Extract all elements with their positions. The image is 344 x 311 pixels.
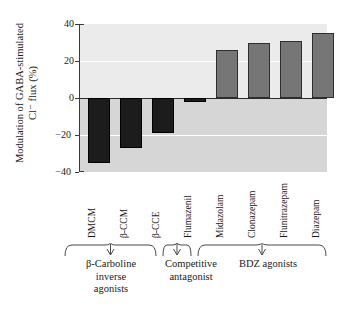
group-label-beta-carboline-line2: inverse xyxy=(57,271,165,284)
x-tick-label-diazepam: Diazepam xyxy=(309,176,323,238)
y-axis-title-line2: Cl⁻ flux (%) xyxy=(26,23,39,163)
group-label-beta-carboline: β-Carboline inverse agonists xyxy=(57,258,165,296)
group-label-bdz-agonists: BDZ agonists xyxy=(218,258,318,271)
group-brace-competitive-antagonist xyxy=(162,243,192,256)
group-label-beta-carboline-line1: β-Carboline xyxy=(57,258,165,271)
group-label-competitive-antagonist-line1: Competitive xyxy=(157,258,225,271)
x-tick-label-clonazepam: Clonazepam xyxy=(245,176,259,238)
group-brace-beta-carboline xyxy=(64,243,157,256)
plot-area xyxy=(79,24,327,172)
x-tick-label-beta-cce: β-CCE xyxy=(149,176,163,238)
gridline-neg20 xyxy=(80,135,327,136)
bar-diazepam xyxy=(312,33,334,98)
x-tick-label-dmcm: DMCM xyxy=(85,176,99,238)
axis-cap-top xyxy=(79,24,84,25)
y-tick-label-20: 20 xyxy=(48,56,74,66)
y-tick-label-neg40: −40 xyxy=(45,167,71,177)
y-tick-label-neg20: −20 xyxy=(45,130,71,140)
bar-beta-cce xyxy=(152,98,174,133)
y-tick-label-40: 40 xyxy=(48,19,74,29)
y-tick-label-0: 0 xyxy=(48,93,74,103)
bar-dmcm xyxy=(88,98,110,163)
bar-flunitrazepam xyxy=(280,41,302,98)
group-brace-bdz-agonists xyxy=(197,243,327,256)
x-tick-label-flumazenil: Flumazenil xyxy=(181,176,195,238)
bar-beta-ccm xyxy=(120,98,142,148)
bar-midazolam xyxy=(216,50,238,98)
group-label-beta-carboline-line3: agonists xyxy=(57,283,165,296)
bar-chart-figure: Modulation of GABA-stimulated Cl⁻ flux (… xyxy=(0,0,344,311)
axis-cap-bottom xyxy=(79,171,84,172)
y-axis-title-line1: Modulation of GABA-stimulated xyxy=(14,23,25,163)
group-label-competitive-antagonist-line2: antagonist xyxy=(157,271,225,284)
x-tick-label-beta-ccm: β-CCM xyxy=(117,176,131,238)
y-axis-title: Modulation of GABA-stimulated Cl⁻ flux (… xyxy=(4,0,48,185)
bar-flumazenil xyxy=(184,98,206,102)
group-label-bdz-agonists-line1: BDZ agonists xyxy=(218,258,318,271)
bar-clonazepam xyxy=(248,43,270,99)
x-tick-label-midazolam: Midazolam xyxy=(213,176,227,238)
x-tick-label-flunitrazepam: Flunitrazepam xyxy=(277,176,291,238)
group-label-competitive-antagonist: Competitive antagonist xyxy=(157,258,225,283)
